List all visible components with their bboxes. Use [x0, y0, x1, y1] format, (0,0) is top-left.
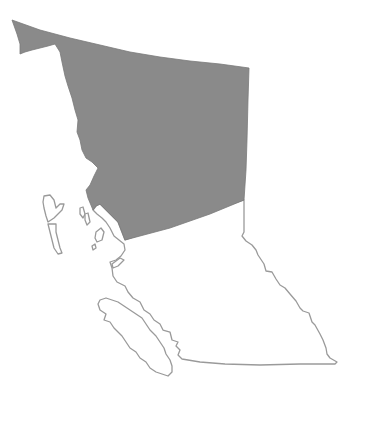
coastal-island-2	[85, 213, 90, 225]
coastal-island-1	[80, 207, 85, 218]
haida-gwaii-south	[48, 224, 62, 254]
haida-gwaii-north	[43, 195, 64, 222]
coastal-island-3	[95, 228, 104, 242]
province-map	[0, 0, 366, 424]
coastal-island-4	[92, 244, 96, 250]
